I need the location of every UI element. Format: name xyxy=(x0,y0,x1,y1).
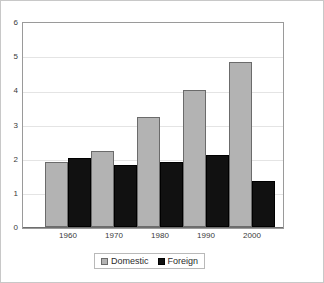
x-tick-label-1980: 1980 xyxy=(137,231,183,241)
legend-entry-domestic[interactable]: Domestic xyxy=(101,257,149,266)
bar-domestic-1970[interactable] xyxy=(91,151,114,227)
bar-group-2000 xyxy=(229,21,275,227)
black-square-icon xyxy=(158,258,165,265)
bar-foreign-1990[interactable] xyxy=(206,155,229,227)
x-tick-label-1960: 1960 xyxy=(45,231,91,241)
y-tick-label: 0 xyxy=(4,224,18,232)
x-tick-label-2000: 2000 xyxy=(229,231,275,241)
y-tick-label: 4 xyxy=(4,87,18,95)
x-tick-label-1990: 1990 xyxy=(183,231,229,241)
bar-group-1980 xyxy=(137,21,183,227)
bar-foreign-2000[interactable] xyxy=(252,181,275,227)
y-tick-label: 2 xyxy=(4,156,18,164)
plot-area xyxy=(22,22,284,229)
chart-figure: 6 5 4 3 2 1 0 xyxy=(0,0,324,283)
bar-domestic-1960[interactable] xyxy=(45,162,68,227)
y-tick-label: 1 xyxy=(4,190,18,198)
bar-foreign-1960[interactable] xyxy=(68,158,91,227)
legend-label-domestic: Domestic xyxy=(111,257,149,266)
bar-group-1960 xyxy=(45,21,91,227)
chart-legend: Domestic Foreign xyxy=(94,253,205,269)
y-tick-label: 6 xyxy=(4,19,18,27)
bar-foreign-1970[interactable] xyxy=(114,165,137,227)
y-tick-label: 3 xyxy=(4,122,18,130)
y-tick-label: 5 xyxy=(4,53,18,61)
gray-square-icon xyxy=(101,258,108,265)
bar-group-1970 xyxy=(91,21,137,227)
bar-series-container xyxy=(23,23,283,228)
legend-label-foreign: Foreign xyxy=(168,257,199,266)
y-axis-tick-labels: 6 5 4 3 2 1 0 xyxy=(1,1,22,283)
bar-domestic-2000[interactable] xyxy=(229,62,252,227)
x-axis-tick-labels: 1960 1970 1980 1990 2000 xyxy=(22,231,284,245)
bar-foreign-1980[interactable] xyxy=(160,162,183,227)
bar-domestic-1980[interactable] xyxy=(137,117,160,227)
legend-entry-foreign[interactable]: Foreign xyxy=(158,257,199,266)
x-tick-label-1970: 1970 xyxy=(91,231,137,241)
bar-group-1990 xyxy=(183,21,229,227)
bar-domestic-1990[interactable] xyxy=(183,90,206,227)
